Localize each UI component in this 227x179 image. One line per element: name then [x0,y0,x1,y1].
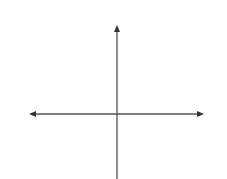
x-axis-right-arrow-icon [197,111,204,117]
y-axis-up-arrow-icon [114,25,120,32]
axes [33,28,199,179]
x-axis-left-arrow-icon [29,111,36,117]
coordinate-grid [0,0,227,179]
